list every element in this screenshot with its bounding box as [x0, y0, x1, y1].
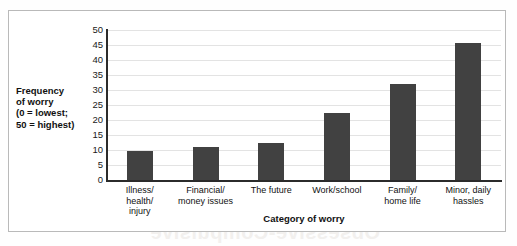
gridline: [107, 165, 501, 166]
x-axis-tick-label-line: Minor, daily: [429, 185, 507, 196]
bar-chart-figure: Obsessive-Compulsive Frequency of worry …: [0, 0, 517, 246]
y-axis-tick-label: 50: [81, 25, 103, 35]
bar: [258, 143, 284, 181]
y-axis-tick-label: 5: [81, 160, 103, 170]
y-axis-tick-label: 45: [81, 40, 103, 50]
bar: [390, 84, 416, 180]
y-axis-tick-label: 10: [81, 145, 103, 155]
gridline: [107, 90, 501, 91]
gridline: [107, 150, 501, 151]
x-axis-line: [106, 180, 502, 183]
gridline: [107, 120, 501, 121]
x-axis-title: Category of worry: [107, 213, 501, 224]
y-axis-line: [106, 29, 108, 181]
y-axis-tick-label: 30: [81, 85, 103, 95]
gridline: [107, 60, 501, 61]
y-axis-tick-label: 20: [81, 115, 103, 125]
bar: [324, 113, 350, 181]
x-axis-tick-label: Minor, dailyhassles: [429, 185, 507, 206]
y-axis-tick-label: 40: [81, 55, 103, 65]
y-axis-tick-label: 0: [81, 175, 103, 185]
y-axis-ticks: 05101520253035404550: [78, 30, 103, 180]
gridline: [107, 30, 501, 31]
y-axis-tick-label: 25: [81, 100, 103, 110]
bar: [193, 147, 219, 180]
plot-area: [107, 30, 501, 180]
x-axis-tick-label-line: money issues: [167, 196, 245, 207]
y-axis-tick-label: 35: [81, 70, 103, 80]
gridline: [107, 75, 501, 76]
gridline: [107, 105, 501, 106]
y-axis-tick-label: 15: [81, 130, 103, 140]
x-axis-tick-label-line: hassles: [429, 196, 507, 207]
bar: [127, 151, 153, 180]
bar: [455, 43, 481, 180]
gridline: [107, 45, 501, 46]
gridline: [107, 135, 501, 136]
